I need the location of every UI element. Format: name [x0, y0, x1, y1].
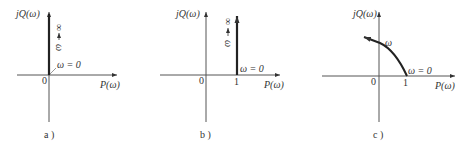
x-axis-label: P(ω): [263, 79, 284, 91]
panel-a: jQ(ω) P(ω) 0 ω = 0 ∞ ω a ): [14, 8, 120, 141]
origin-label: 0: [371, 76, 376, 87]
omega-label: ω: [223, 40, 234, 47]
omega-label: ω: [385, 37, 392, 48]
leader-line: [50, 68, 56, 74]
y-axis-label: jQ(ω): [351, 8, 377, 20]
start-label: ω = 0: [240, 63, 264, 74]
start-label: ω = 0: [408, 65, 432, 76]
y-axis-label: jQ(ω): [174, 8, 200, 20]
infinity-label: ∞: [54, 24, 65, 31]
infinity-label: ∞: [223, 18, 234, 25]
start-label: ω = 0: [57, 59, 81, 70]
origin-label: 0: [199, 75, 204, 86]
frequency-response-diagrams: jQ(ω) P(ω) 0 ω = 0 ∞ ω a ) jQ(ω) P(ω) 0 …: [0, 0, 469, 153]
y-axis-label: jQ(ω): [14, 8, 40, 20]
origin-label: 0: [42, 75, 47, 86]
caption: c ): [373, 129, 383, 141]
panel-c: jQ(ω) P(ω) 0 1 ω = 0 ω c ): [322, 8, 455, 141]
panel-b: jQ(ω) P(ω) 0 1 ω = 0 ∞ ω b ): [160, 8, 284, 141]
caption: a ): [44, 129, 54, 141]
x-axis-label: P(ω): [99, 79, 120, 91]
caption: b ): [200, 129, 211, 141]
unit-label: 1: [403, 77, 408, 88]
x-axis-label: P(ω): [434, 80, 455, 92]
unit-label: 1: [234, 76, 239, 87]
omega-label: ω: [54, 44, 65, 51]
